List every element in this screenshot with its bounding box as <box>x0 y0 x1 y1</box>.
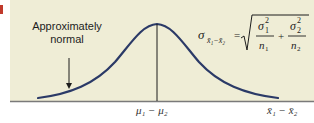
standard-error-formula: σ x̄₁−x̄₂ = σ 2 1 n 1 + σ 2 2 n 2 <box>198 12 310 58</box>
equals-sign: = <box>234 29 240 41</box>
term1-sup: 2 <box>265 16 269 25</box>
term2-sup: 2 <box>297 16 301 25</box>
annotation-line-1: Approximately <box>24 20 110 33</box>
sigma-symbol: σ <box>198 27 205 42</box>
plus-sign: + <box>278 30 284 42</box>
term1-numerator: σ <box>258 19 265 33</box>
axis-variable-label: x̄₁ − x̄₂ <box>267 104 297 116</box>
sigma-subscript: x̄₁−x̄₂ <box>206 36 225 45</box>
term1-sub: 1 <box>265 26 269 35</box>
term1-den-sub: 1 <box>265 45 269 53</box>
mean-difference-label: μ₁ − μ₂ <box>136 104 168 116</box>
approximately-normal-label: Approximately normal <box>24 20 110 46</box>
arrow-down-icon <box>66 58 72 89</box>
term2-numerator: σ <box>290 19 297 33</box>
term2-den-sub: 2 <box>297 45 301 53</box>
annotation-line-2: normal <box>24 33 110 46</box>
term2-sub: 2 <box>297 26 301 35</box>
